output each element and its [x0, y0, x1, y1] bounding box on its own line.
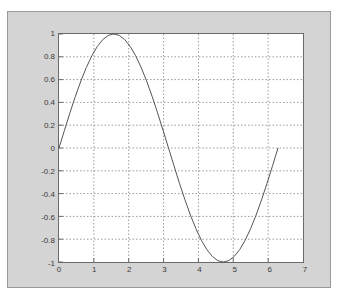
y-tick-label: 0: [51, 145, 55, 153]
y-tick-label: -0.6: [41, 214, 55, 222]
y-tick-label: 1: [51, 30, 55, 38]
x-tick-label: 4: [197, 266, 201, 274]
y-tick-label: 0.8: [44, 53, 55, 61]
y-tick-label: 0.6: [44, 76, 55, 84]
figure-panel: 10.80.60.40.20-0.2-0.4-0.6-0.8-101234567: [7, 11, 331, 288]
y-tick-label: 0.2: [44, 122, 55, 130]
x-tick-label: 7: [303, 266, 307, 274]
y-tick-label: 0.4: [44, 99, 55, 107]
x-tick-label: 5: [232, 266, 236, 274]
x-tick-label: 1: [92, 266, 96, 274]
plot-area: 10.80.60.40.20-0.2-0.4-0.6-0.8-101234567: [58, 33, 304, 263]
y-tick-label: -0.2: [41, 168, 55, 176]
y-tick-label: -0.4: [41, 191, 55, 199]
y-tick-label: -0.8: [41, 237, 55, 245]
x-tick-label: 6: [268, 266, 272, 274]
tick-labels: 10.80.60.40.20-0.2-0.4-0.6-0.8-101234567: [59, 34, 303, 262]
y-tick-label: -1: [48, 260, 55, 268]
x-tick-label: 3: [162, 266, 166, 274]
x-tick-label: 2: [127, 266, 131, 274]
x-tick-label: 0: [57, 266, 61, 274]
